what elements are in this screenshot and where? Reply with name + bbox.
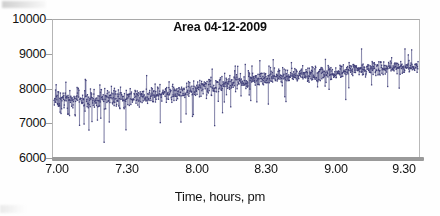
x-tick-label-930: 9.30	[374, 163, 434, 176]
y-tick-label-8000: 8000	[2, 83, 46, 96]
y-tick-label-7000: 7000	[2, 117, 46, 130]
x-axis-title: Time, hours, pm	[0, 189, 440, 204]
x-axis-baseline	[52, 157, 424, 161]
series-scatter-area	[53, 20, 421, 159]
x-tick-label-800: 8.00	[167, 163, 227, 176]
x-tick-label-900: 9.00	[306, 163, 366, 176]
scan-artifact-bottom-left	[0, 205, 26, 213]
x-tick-label-830: 8.30	[236, 163, 296, 176]
y-tick-label-10000: 10000	[2, 13, 46, 26]
chart-figure: 10000 9000 8000 7000 6000 Area 04-12-200…	[0, 0, 440, 216]
x-tick-label-700: 7.00	[27, 163, 87, 176]
y-tick-label-9000: 9000	[2, 48, 46, 61]
plot-area	[52, 19, 420, 158]
scan-artifact-top-left	[2, 1, 46, 8]
x-tick-label-730: 7.30	[97, 163, 157, 176]
chart-title: Area 04-12-2009	[120, 20, 320, 34]
